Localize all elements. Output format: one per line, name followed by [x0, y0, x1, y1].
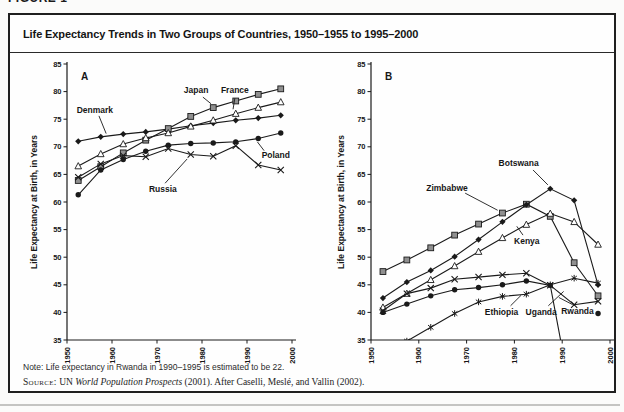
y-tick-label: 65: [53, 170, 61, 179]
y-axis-title: Life Expectancy at Birth, in Years: [336, 135, 346, 269]
series-label-kenya: Kenya: [514, 236, 540, 246]
y-tick-label: 35: [53, 336, 61, 345]
figure-number-label: FIGURE 1: [8, 0, 208, 5]
note-text: Note: Life expectancy in Rwanda in 1990–…: [23, 362, 284, 372]
series-russia: [75, 143, 284, 181]
x-tick-label: 1950: [367, 347, 376, 364]
y-tick-label: 40: [53, 308, 61, 317]
y-tick-label: 75: [357, 115, 365, 124]
y-tick-label: 50: [53, 253, 61, 262]
life-expectancy-line-chart: 3540455055606570758085195019601970198019…: [10, 15, 614, 391]
series-japan: [75, 86, 283, 183]
y-tick-label: 60: [357, 198, 365, 207]
x-tick-label: 1960: [414, 347, 423, 364]
y-tick-label: 35: [357, 336, 365, 345]
y-tick-label: 75: [53, 115, 61, 124]
source-un: UN: [57, 377, 75, 387]
y-tick-label: 85: [53, 60, 61, 69]
series-label-zimbabwe: Zimbabwe: [426, 183, 468, 193]
y-tick-label: 45: [357, 280, 365, 289]
callout-line-ethiopia: [511, 295, 522, 305]
series-label-poland: Poland: [262, 150, 290, 160]
source-label: Source:: [23, 377, 57, 387]
panel-letter: A: [81, 71, 88, 82]
series-label-botswana: Botswana: [499, 158, 539, 168]
y-tick-label: 55: [357, 225, 365, 234]
series-label-uganda: Uganda: [526, 307, 557, 317]
callout-line-russia: [165, 159, 187, 183]
y-tick-label: 50: [357, 253, 365, 262]
series-poland: [76, 130, 284, 197]
y-tick-label: 80: [53, 87, 61, 96]
series-label-france: France: [221, 85, 249, 95]
x-tick-label: 1970: [462, 347, 471, 364]
y-tick-label: 55: [53, 225, 61, 234]
source-text: Source: UN World Population Prospects (2…: [23, 377, 364, 387]
page-edge-line: [0, 404, 620, 406]
panel-a: 3540455055606570758085195019601970198019…: [29, 60, 297, 364]
y-tick-label: 40: [357, 308, 365, 317]
x-tick-label: 2000: [606, 347, 614, 364]
panel-b: 3540455055606570758085195019601970198019…: [336, 60, 614, 391]
source-rest: (2001). After Caselli, Meslé, and Vallin…: [182, 377, 364, 387]
callout-line-denmark: [99, 116, 106, 134]
x-tick-label: 1990: [558, 347, 567, 364]
y-tick-label: 70: [53, 142, 61, 151]
panel-letter: B: [385, 71, 392, 82]
y-axis-title: Life Expectancy at Birth, in Years: [29, 135, 39, 269]
source-title-italic: World Population Prospects: [75, 377, 182, 387]
y-tick-label: 70: [357, 142, 365, 151]
series-label-ethiopia: Ethiopia: [485, 307, 519, 317]
y-tick-label: 80: [357, 87, 365, 96]
series-label-russia: Russia: [149, 184, 177, 194]
callout-line-zimbabwe: [465, 193, 498, 210]
x-tick-label: 2000: [288, 347, 297, 364]
series-zimbabwe: [380, 201, 601, 298]
series-rwanda: [380, 278, 601, 391]
callout-line-japan: [203, 97, 211, 104]
series-botswana: [380, 186, 601, 301]
axes: [67, 62, 296, 340]
y-tick-label: 60: [53, 198, 61, 207]
y-tick-label: 85: [357, 60, 365, 69]
series-label-denmark: Denmark: [77, 105, 114, 115]
series-label-rwanda: Rwanda: [561, 306, 594, 316]
series-label-japan: Japan: [184, 85, 209, 95]
y-tick-label: 65: [357, 170, 365, 179]
series-kenya: [380, 210, 602, 310]
x-tick-label: 1980: [510, 347, 519, 364]
page-header: FIGURE 1: [8, 0, 208, 5]
callout-line-botswana: [533, 170, 548, 185]
y-tick-label: 45: [53, 280, 61, 289]
figure-box: Life Expectancy Trends in Two Groups of …: [8, 13, 616, 393]
